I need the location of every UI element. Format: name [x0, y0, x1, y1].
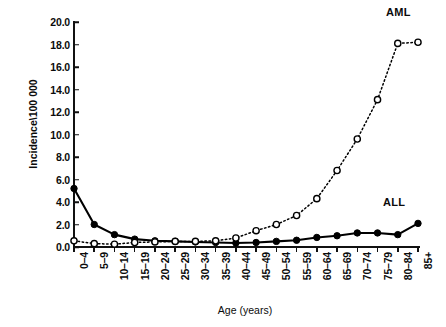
- data-point-aml: [172, 238, 178, 244]
- data-point-all: [354, 230, 360, 236]
- y-axis-tick-mark: [73, 246, 79, 248]
- series-label-aml: AML: [386, 6, 411, 18]
- incidence-by-age-chart: 0.02.04.06.08.010.012.014.016.018.020.0 …: [0, 0, 446, 327]
- data-point-aml: [253, 228, 259, 234]
- data-point-aml: [213, 238, 219, 244]
- data-point-aml: [152, 239, 158, 245]
- data-point-aml: [395, 40, 401, 46]
- data-point-all: [334, 233, 340, 239]
- data-point-aml: [111, 241, 117, 247]
- data-point-aml: [415, 39, 421, 45]
- y-axis-tick-mark: [73, 89, 79, 91]
- data-point-aml: [273, 221, 279, 227]
- data-point-all: [71, 185, 77, 191]
- series-plot: [0, 0, 446, 327]
- y-axis-tick-mark: [73, 179, 79, 181]
- data-point-aml: [132, 239, 138, 245]
- series-label-all: ALL: [383, 196, 405, 208]
- data-point-all: [91, 221, 97, 227]
- data-point-aml: [354, 136, 360, 142]
- data-point-all: [293, 237, 299, 243]
- data-point-aml: [91, 241, 97, 247]
- data-point-aml: [334, 167, 340, 173]
- data-point-all: [395, 231, 401, 237]
- data-point-all: [253, 239, 259, 245]
- y-axis-tick-mark: [73, 111, 79, 113]
- data-point-all: [415, 220, 421, 226]
- y-axis-tick-mark: [73, 156, 79, 158]
- data-point-all: [314, 234, 320, 240]
- y-axis-tick-mark: [73, 134, 79, 136]
- y-axis-tick-mark: [73, 201, 79, 203]
- y-axis-tick-mark: [73, 21, 79, 23]
- data-point-all: [374, 230, 380, 236]
- data-point-aml: [233, 235, 239, 241]
- data-point-all: [111, 231, 117, 237]
- y-axis-tick-mark: [73, 66, 79, 68]
- data-point-aml: [314, 196, 320, 202]
- y-axis-tick-mark: [73, 224, 79, 226]
- y-axis-tick-mark: [73, 44, 79, 46]
- series-line-aml: [74, 42, 418, 244]
- data-point-aml: [374, 97, 380, 103]
- data-point-aml: [71, 238, 77, 244]
- data-point-all: [273, 238, 279, 244]
- data-point-aml: [293, 212, 299, 218]
- data-point-aml: [192, 238, 198, 244]
